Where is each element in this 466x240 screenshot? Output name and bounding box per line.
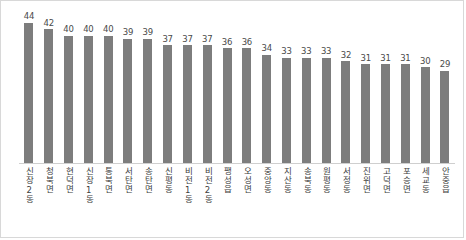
category-label-slot: 세교동 [415,167,435,231]
category-label-slot: 비전2동 [197,167,217,231]
category-label-slot: 중앙동 [257,167,277,231]
bar-value-label: 40 [103,25,113,34]
category-label: 현덕면 [64,167,73,194]
bar-value-label: 44 [24,12,34,21]
bar-group: 34 [257,9,277,163]
category-label: 신장2동 [25,167,34,204]
bar-value-label: 42 [44,19,54,28]
bar [203,45,212,163]
category-label: 팽성읍 [223,167,232,194]
bar-group: 33 [296,9,316,163]
category-label: 오성면 [243,167,252,194]
category-label-slot: 신평동 [158,167,178,231]
category-label: 신평동 [163,167,172,194]
category-label-slot: 지산동 [277,167,297,231]
bar-value-label: 39 [143,28,153,37]
category-label: 진위면 [361,167,370,194]
bar-value-label: 31 [380,54,390,63]
bar [44,29,53,163]
bar-value-label: 36 [242,38,252,47]
bar-value-label: 40 [83,25,93,34]
category-label-slot: 포승면 [395,167,415,231]
category-label-slot: 진위면 [356,167,376,231]
bar-value-label: 31 [361,54,371,63]
bar-group: 42 [39,9,59,163]
category-label-slot: 서탄면 [118,167,138,231]
bar-value-label: 29 [440,60,450,69]
bar [381,64,390,163]
bar-group: 40 [59,9,79,163]
bar [104,36,113,164]
bar-value-label: 33 [301,47,311,56]
bar [123,39,132,164]
bar [262,55,271,164]
category-label: 지산동 [282,167,291,194]
bar-value-label: 30 [420,57,430,66]
bar-value-label: 37 [182,35,192,44]
bar-group: 31 [356,9,376,163]
bar-group: 31 [376,9,396,163]
bar [322,58,331,163]
bar [163,45,172,163]
category-label-slot: 원평동 [316,167,336,231]
category-label-slot: 신장2동 [19,167,39,231]
category-label: 서탄면 [124,167,133,194]
bar-value-label: 33 [281,47,291,56]
plot-area: 4442404040393937373736363433333332313131… [19,9,455,231]
category-label-slot: 고덕면 [376,167,396,231]
bar [440,71,449,164]
bar-value-label: 33 [321,47,331,56]
bar-value-label: 36 [222,38,232,47]
category-label: 고덕면 [381,167,390,194]
bar [24,23,33,164]
category-label: 중앙동 [262,167,271,194]
bar-group: 36 [237,9,257,163]
bar-value-label: 39 [123,28,133,37]
bar [64,36,73,164]
category-label-slot: 통북면 [98,167,118,231]
bar-group: 37 [158,9,178,163]
category-label-slot: 서정동 [336,167,356,231]
bar-group: 37 [178,9,198,163]
category-label: 청북면 [44,167,53,194]
bar-group: 37 [197,9,217,163]
bar-group: 40 [98,9,118,163]
bar-group: 30 [415,9,435,163]
bar [401,64,410,163]
bar-value-label: 32 [341,51,351,60]
category-label-slot: 신장1동 [78,167,98,231]
bar-group: 44 [19,9,39,163]
category-label: 신장1동 [84,167,93,204]
category-label: 송북동 [302,167,311,194]
category-label-slot: 비전1동 [178,167,198,231]
category-labels-container: 신장2동청북면현덕면신장1동통북면서탄면송탄면신평동비전1동비전2동팽성읍오성면… [19,164,455,231]
category-label: 안중읍 [441,167,450,194]
bar-group: 29 [435,9,455,163]
bar-chart: 4442404040393937373736363433333332313131… [0,0,464,238]
category-label-slot: 안중읍 [435,167,455,231]
category-label-slot: 팽성읍 [217,167,237,231]
category-label-slot: 송탄면 [138,167,158,231]
bar [361,64,370,163]
bar [302,58,311,163]
category-label: 송탄면 [143,167,152,194]
bar-group: 33 [316,9,336,163]
bar-group: 32 [336,9,356,163]
bar-group: 39 [118,9,138,163]
category-label: 비전1동 [183,167,192,204]
category-label: 비전2동 [203,167,212,204]
bar-group: 40 [78,9,98,163]
category-label: 서정동 [342,167,351,194]
bar [223,48,232,163]
category-label: 통북면 [104,167,113,194]
bar-group: 33 [277,9,297,163]
bar [421,67,430,163]
bars-container: 4442404040393937373736363433333332313131… [19,9,455,164]
bar-value-label: 37 [202,35,212,44]
category-label: 세교동 [421,167,430,194]
category-label-slot: 오성면 [237,167,257,231]
bar-value-label: 34 [261,44,271,53]
bar [282,58,291,163]
bar [341,61,350,163]
bar [84,36,93,164]
